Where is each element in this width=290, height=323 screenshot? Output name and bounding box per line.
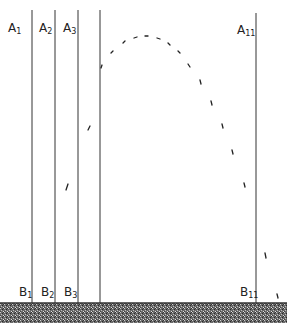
label-a2: A2 bbox=[39, 21, 52, 36]
trajectory-diagram: A1 A2 A3 A11 B1 B2 B3 B11 bbox=[0, 0, 290, 323]
label-b3: B3 bbox=[64, 285, 77, 300]
label-b2: B2 bbox=[41, 285, 54, 300]
label-a1: A1 bbox=[8, 21, 21, 36]
vertical-lines bbox=[32, 10, 256, 304]
top-labels: A1 A2 A3 A11 bbox=[8, 21, 255, 38]
label-b1: B1 bbox=[19, 285, 32, 300]
ground bbox=[0, 303, 287, 323]
trajectory-dashes bbox=[66, 36, 278, 298]
label-a3: A3 bbox=[63, 21, 76, 36]
label-a11: A11 bbox=[237, 23, 255, 38]
